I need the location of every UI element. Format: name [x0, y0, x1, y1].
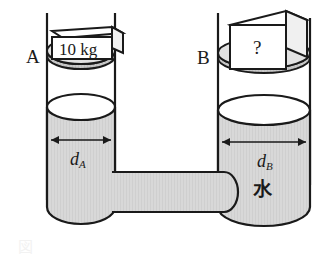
block-b-side-face: [286, 11, 307, 57]
label-diameter-a-symbol: d: [70, 149, 79, 169]
label-block-a-mass: 10 kg: [59, 41, 97, 58]
connecting-pipe-group: [112, 172, 244, 212]
diagram-canvas: [0, 0, 332, 256]
label-block-b-unknown: ?: [253, 38, 261, 57]
cylinder-a-water-surface: [47, 94, 115, 120]
caption-partial-text: 図: [18, 240, 33, 255]
label-diameter-b-symbol: d: [257, 151, 266, 171]
label-diameter-a-subscript: A: [79, 158, 86, 170]
label-vessel-a: A: [26, 47, 40, 66]
label-diameter-b: dB: [257, 152, 273, 170]
label-water: 水: [253, 180, 272, 199]
label-vessel-b: B: [197, 48, 210, 67]
cylinder-b-water-surface: [218, 95, 310, 125]
block-a-side-face: [112, 27, 123, 53]
physics-diagram-figure: A B 10 kg ? dA dB 水 図: [0, 0, 332, 256]
label-diameter-b-subscript: B: [266, 160, 273, 172]
connecting-pipe: [112, 172, 244, 212]
label-diameter-a: dA: [70, 150, 86, 168]
